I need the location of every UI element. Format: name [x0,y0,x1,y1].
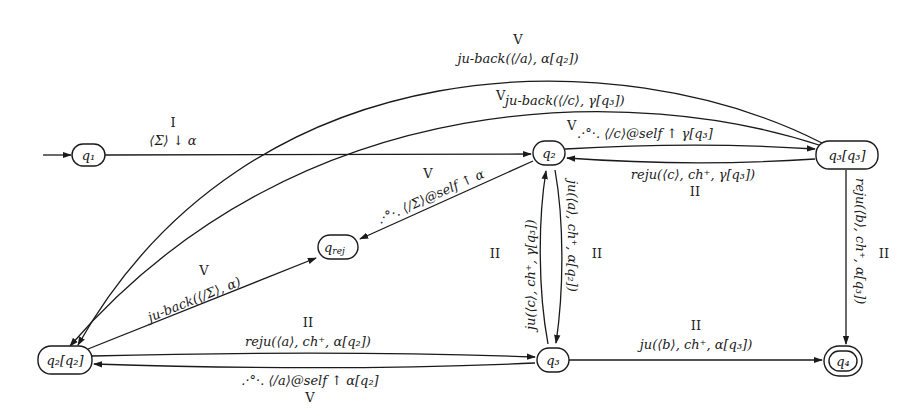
node-q3q3-label: q₃[q₃] [828,148,866,163]
label-q2q2-q3: reju(⟨a⟩, ch⁺, α[q₂]) [245,334,371,349]
phase-q3-q2: II [490,246,500,261]
edge-q1-q2 [105,154,531,155]
node-q2q2-label: q₂[q₂] [46,353,84,368]
phase-q2q2-qrej: V [198,263,209,278]
edge-q2-q3q3 [565,145,815,149]
node-q2: q₂ [533,141,565,165]
label-q3q3-q4: reju(⟨b⟩, ch⁺, α[q₃]) [853,178,868,304]
state-diagram: q₁ q₂ q₃[q₃] qrej q₂[q₂] q₃ q₄ I ⟨Σ⟩ ↓ α… [0,0,916,419]
node-q2-label: q₂ [542,146,556,161]
phase-q1-q2: I [170,115,175,130]
label-q2-q3: ju(⟨a⟩, ch⁺, α[q₂]) [565,177,580,292]
node-q4: q₄ [824,346,862,376]
node-q1-label: q₁ [82,148,96,163]
node-q1: q₁ [72,144,105,166]
edge-q3q3-q2 [567,158,815,163]
edge-q2-qrej [360,161,533,239]
phase-top-arc-1: V [512,32,523,47]
label-q3-q2q2: .·°·. ⟨/a⟩@self ↑ α[q₂] [241,373,379,388]
node-qrej: qrej [318,235,358,259]
node-q3q3: q₃[q₃] [816,141,878,169]
phase-q3-q2q2: V [304,390,315,405]
label-q2q2-qrej: ju-back(⟨/Σ⟩, α) [143,274,243,326]
phase-q2-q3: II [592,246,602,261]
edge-q2-q3 [555,170,562,343]
phase-q3q3-q4: II [879,246,889,261]
label-q3-q2: ju(⟨c⟩, ch⁺, γ[q₃]) [523,220,538,333]
node-q2q2: q₂[q₂] [38,346,92,374]
edge-q3-q2 [540,171,548,344]
node-q4-label: q₄ [836,354,850,369]
node-q3-label: q₃ [546,353,560,368]
node-qrej-sub: rej [332,246,345,256]
label-top-arc-2: ju-back(⟨/c⟩, γ[q₃]) [502,93,625,108]
phase-q2-q3q3: V [566,118,577,133]
label-q1-q2: ⟨Σ⟩ ↓ α [149,133,196,148]
phase-q2q2-q3: II [303,315,313,330]
edge-q3-q2q2 [94,363,535,368]
edge-q2q2-q3 [92,353,535,357]
phase-q3-q4: II [691,318,701,333]
label-q2-q3q3: .·°·. ⟨/c⟩@self ↑ γ[q₃] [577,126,714,141]
phase-q2-qrej: V [422,166,433,181]
node-q3: q₃ [537,348,569,372]
label-q3-q4: ju(⟨b⟩, ch⁺, α[q₃]) [637,337,753,352]
node-qrej-label: q [324,240,332,255]
label-top-arc-1: ju-back(⟨/a⟩, α[q₂]) [454,51,578,66]
phase-q3q3-q2: II [690,184,700,199]
label-q3q3-q2: reju(⟨c⟩, ch⁺, γ[q₃]) [631,167,755,182]
